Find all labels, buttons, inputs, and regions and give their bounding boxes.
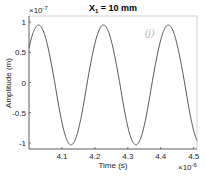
x-tick-label: 4.5 [188,152,200,161]
y-tick-label: 0 [22,79,27,88]
x-exponent-label: ×10-6 [178,162,198,172]
y-ticks: -1-0.500.51 [12,18,31,148]
y-tick-label: -0.5 [12,109,26,118]
chart-figure: X1 = 10 mm ×10-7 -1-0.500.51 4.14.24.34.… [0,0,206,182]
y-axis-label: Amplitude (m) [4,58,13,108]
y-exponent-label: ×10-7 [29,5,49,15]
x-tick-label: 4.2 [89,152,101,161]
y-tick-label: 1 [22,18,27,27]
amplitude-line [29,25,197,145]
y-tick-label: 0.5 [15,48,27,57]
axes-box [29,16,197,149]
x-tick-label: 4.4 [155,152,167,161]
chart-title: X1 = 10 mm [89,3,137,14]
y-tick-label: -1 [19,139,27,148]
panel-label: (j) [145,27,155,39]
x-axis-label: Time (s) [98,161,127,170]
x-tick-label: 4.1 [56,152,68,161]
x-tick-label: 4.3 [122,152,134,161]
